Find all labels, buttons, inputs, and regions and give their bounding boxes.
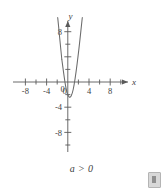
figure-caption: a > 0 [0, 163, 163, 174]
corner-watermark-icon [148, 172, 161, 188]
x-tick-label: 8 [108, 86, 112, 96]
parabola-curve-left-branch [58, 18, 62, 60]
x-tick-label: -4 [43, 86, 51, 96]
corner-watermark-glyph [152, 176, 156, 183]
y-tick-label: -4 [55, 102, 63, 112]
x-tick-label: -8 [22, 86, 29, 96]
x-axis-label: x [131, 77, 136, 87]
x-axis-arrow-icon [122, 79, 128, 84]
x-tick-label: 4 [87, 86, 92, 96]
y-axis-label: y [68, 11, 73, 21]
y-tick-label: -8 [55, 128, 62, 138]
y-axis-arrow-icon [65, 21, 70, 27]
parabola-figure: -8 -4 0 4 8 x 8 0 -4 -8 y [0, 0, 163, 192]
y-tick-label: 0 [61, 84, 65, 94]
